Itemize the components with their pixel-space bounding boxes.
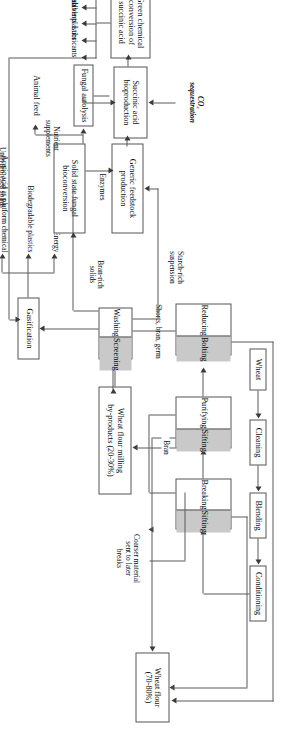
edge-cleaning-blending — [257, 465, 258, 487]
arrow-succinic-green — [125, 54, 131, 59]
edge-green-out-2 — [85, 7, 96, 8]
node-blending: Blending — [249, 492, 266, 538]
edge-nutrient-v — [93, 95, 109, 96]
arrow-green-out-3 — [81, 20, 86, 26]
arrow-bolting-flour — [171, 697, 176, 703]
edge-nutrient-up — [83, 102, 113, 103]
edge-branrich-h — [72, 188, 73, 310]
arrow-washing-gasification — [39, 325, 44, 331]
edge-washing-gasif-drop — [43, 328, 98, 329]
node-gasification: Gasification — [17, 297, 39, 359]
node-conditioning: Conditioning — [249, 565, 266, 621]
arrow-green-out-2 — [81, 4, 86, 10]
edge-recycle-tail — [184, 492, 185, 560]
arrow-blending-conditioning — [255, 559, 261, 564]
arrow-green-out-5 — [81, 54, 86, 60]
edge-conditioning-down — [203, 593, 249, 594]
edge-recycle-riser — [149, 560, 185, 561]
arrow-branrich-solidstate — [70, 232, 76, 237]
edge-recycle-up — [149, 414, 175, 415]
edge-bolting-flour — [272, 341, 273, 701]
arrow-co2-succinic — [148, 99, 153, 105]
label-enzymes: Enzymes — [97, 173, 105, 219]
node-screening-label: Screening — [99, 336, 131, 370]
arrow-gasif-out-2 — [25, 253, 31, 258]
edge-co2-v — [153, 102, 175, 103]
edge-sifting2-flour — [151, 437, 152, 647]
edge-green-out-3 — [85, 23, 96, 24]
node-purifying-label: Purifying — [176, 397, 230, 428]
output-gasification-plastics: Biodegradable plastics — [25, 152, 33, 252]
edge-green-out-stem — [96, 22, 110, 23]
edge-unhydro-h — [8, 57, 9, 319]
edge-starch-h — [157, 188, 158, 318]
edge-starch-v — [132, 318, 158, 319]
node-generic-feedstock-real: Generic feedstock production — [111, 143, 143, 233]
edge-recycle-across — [148, 414, 149, 492]
arrow-unhydro-gasification — [15, 316, 20, 322]
node-bolting-label: Bolting — [176, 335, 230, 361]
node-breaking-sifting: Breaking Sifting — [175, 478, 231, 529]
label-unhydrolysed: Unhydrolysed solids — [0, 112, 5, 242]
node-fungal-autolysis: Fungal autolysis — [73, 64, 93, 126]
edge-starch-drop — [149, 188, 158, 189]
arrow-nutrient-succinic — [110, 99, 115, 105]
edge-sifting1-flour — [246, 516, 247, 687]
node-succinic: Succinic acid bioproduction — [113, 66, 147, 138]
arrow-wheat-cleaning — [255, 413, 261, 418]
edge-green-out-bus — [95, 0, 96, 58]
edge-blending-conditioning — [257, 538, 258, 560]
edge-recycle-down1 — [149, 492, 175, 493]
edge-conditioning-left — [202, 534, 203, 593]
edge-sifting1-up — [231, 516, 247, 517]
edge-bolting-up — [231, 341, 273, 342]
edge-wheat-cleaning — [257, 390, 258, 414]
node-wheat: Wheat — [249, 348, 266, 390]
arrow-shorts-byproducts — [110, 388, 116, 393]
arrow-enzymes-feedstock — [108, 167, 113, 173]
arrow-feedstock-succinic — [124, 135, 130, 140]
edge-bolting-flour-drop — [176, 700, 273, 701]
node-reducing-label: Reducing — [176, 304, 230, 335]
arrow-solidstate-feed — [32, 124, 38, 129]
edge-bran-drop2 — [135, 447, 155, 448]
arrow-purifying-reducing — [200, 367, 206, 372]
label-co2-sequestration: CO₂ sequestration — [186, 58, 203, 146]
edge-green-out-4 — [85, 40, 96, 41]
edge-gasif-out-3 — [1, 258, 2, 272]
edge-gasif-out-bus — [27, 272, 28, 297]
arrow-solidstate-autolysis — [80, 128, 86, 133]
label-coarser-material: Coarser material sent to later breaks — [114, 521, 139, 595]
edge-sifting1-flour-drop — [171, 687, 247, 688]
edge-green-out-5 — [85, 57, 96, 58]
edge-gasif-out-1 — [53, 258, 54, 272]
edge-branrich-v — [73, 310, 98, 311]
arrow-green-out-4 — [81, 37, 86, 43]
edge-enzymes-v — [85, 170, 111, 171]
label-bran-rich: Bran-rich solids — [86, 246, 103, 302]
label-nutrient: Nutrient supplements — [42, 104, 59, 172]
node-sifting2-label: Sifting — [176, 428, 230, 451]
label-bran: Bran — [161, 429, 169, 465]
arrow-gasif-out-1 — [51, 253, 57, 258]
node-washing-screening: Washing Screening — [98, 307, 132, 359]
label-starch-rich: Starch-rich suspension — [166, 232, 183, 302]
edge-gasif-out-2 — [27, 258, 28, 272]
arrow-starch-feedstock — [144, 185, 149, 191]
edge-purifying-reducing — [202, 372, 203, 396]
edge-breaking-purifying — [202, 454, 203, 478]
node-reducing-bolting: Reducing Bolting — [175, 303, 231, 355]
edge-nutrient-to-autolysis — [82, 96, 83, 102]
arrow-sifting2-flour — [149, 646, 155, 651]
node-byproducts: Wheat flour milling by-products (20-30%) — [98, 386, 131, 494]
figure-page: Wheat Cleaning Blending Conditioning Bre… — [0, 0, 289, 738]
node-cleaning: Cleaning — [249, 419, 266, 465]
node-washing-label: Washing — [99, 308, 131, 336]
flowchart-canvas: Wheat Cleaning Blending Conditioning Bre… — [0, 0, 289, 738]
arrow-gasif-out-3 — [0, 253, 5, 258]
node-wheat-flour: Wheat flour (70-80%) — [135, 652, 169, 722]
node-green-conversion: Green chemical conversion of succinic ac… — [110, 0, 150, 58]
node-purifying-sifting: Purifying Sifting — [175, 396, 231, 448]
output-green-conversion-4: Lubricants — [69, 0, 77, 57]
arrow-cleaning-blending — [255, 486, 261, 491]
